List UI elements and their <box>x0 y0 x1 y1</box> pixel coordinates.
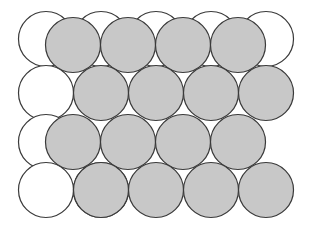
front-layer-circle <box>184 163 239 218</box>
front-layer-circle <box>211 115 266 170</box>
front-layer-circle <box>184 66 239 121</box>
front-layer-circle <box>74 66 129 121</box>
front-layer-circle <box>129 163 184 218</box>
shaded-front-layer <box>46 18 294 218</box>
front-layer-circle <box>239 163 294 218</box>
front-layer-circle <box>239 66 294 121</box>
front-layer-circle <box>46 18 101 73</box>
front-layer-circle <box>211 18 266 73</box>
sphere-packing-diagram <box>0 0 329 242</box>
back-layer-circle <box>19 163 74 218</box>
close-packing-figure <box>0 0 329 242</box>
front-layer-circle <box>101 18 156 73</box>
front-layer-circle <box>156 18 211 73</box>
back-layer-circle <box>19 66 74 121</box>
front-layer-circle <box>46 115 101 170</box>
front-layer-circle <box>74 163 129 218</box>
front-layer-circle <box>156 115 211 170</box>
front-layer-circle <box>101 115 156 170</box>
front-layer-circle <box>129 66 184 121</box>
